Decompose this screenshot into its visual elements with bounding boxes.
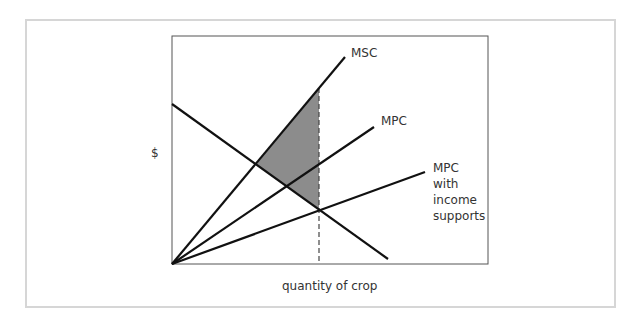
plot-frame — [172, 36, 488, 264]
mpc-label: MPC — [381, 114, 407, 128]
mpc-income-supports-label-line-3: income — [433, 193, 477, 207]
mpc-income-supports-label-line-2: with — [433, 177, 458, 191]
mpc-income-supports-label-line-1: MPC — [433, 161, 459, 175]
economics-diagram: MSC MPC MPC with income supports $ quant… — [0, 0, 639, 324]
demand-curve — [172, 104, 388, 259]
y-axis-label: $ — [151, 146, 159, 160]
mpc-income-supports-label-line-4: supports — [433, 209, 485, 223]
x-axis-label: quantity of crop — [282, 279, 377, 293]
shaded-welfare-loss-area — [256, 88, 319, 209]
msc-label: MSC — [351, 46, 377, 60]
